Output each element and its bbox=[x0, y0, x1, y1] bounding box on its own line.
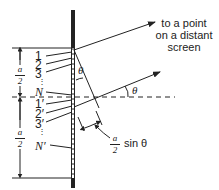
path-diff-suffix: sin θ bbox=[124, 138, 147, 149]
half-width-upper: a2 bbox=[15, 65, 25, 86]
screen-caption: to a point on a distant screen bbox=[150, 17, 218, 53]
path-diff-fraction: a2 bbox=[110, 134, 120, 155]
slit-segments bbox=[72, 48, 75, 178]
theta-at-ray: θ bbox=[132, 85, 137, 96]
label-Np: N′ bbox=[35, 140, 46, 152]
half-width-lower: a2 bbox=[15, 128, 25, 149]
theta-near-slit: θ bbox=[78, 65, 83, 76]
dots-lower: ⋮ bbox=[38, 128, 46, 136]
barrier-top bbox=[71, 10, 75, 48]
barrier-bottom bbox=[71, 178, 75, 188]
